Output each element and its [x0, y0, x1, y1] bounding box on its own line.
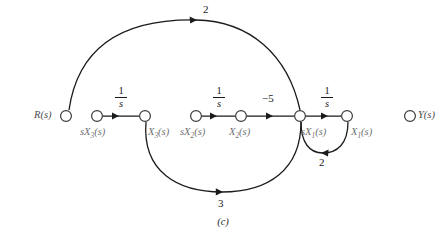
node-label-X2: X2(s)	[229, 127, 250, 139]
node-Y[interactable]	[405, 111, 416, 122]
node-label-X1: X1(s)	[351, 127, 372, 139]
node-sX2[interactable]	[191, 111, 202, 122]
node-X3[interactable]	[140, 111, 151, 122]
node-label-X3: X3(s)	[148, 127, 169, 139]
gain-label-X3-sX1: 3	[218, 198, 224, 209]
node-label-sX3: sX3(s)	[80, 127, 105, 139]
node-label-sX2: sX2(s)	[180, 127, 205, 139]
gain-label-X1-sX1: 2	[319, 157, 325, 168]
edge-sX3-to-X3	[103, 113, 139, 120]
figure-caption: (c)	[0, 216, 446, 227]
signal-flow-graph-figure: R(s) sX3(s) X3(s) sX2(s) X2(s) sX1(s) X1…	[0, 0, 446, 247]
node-label-Y: Y(s)	[418, 110, 435, 122]
edge-sX2-to-X2	[202, 113, 235, 120]
node-R[interactable]	[61, 111, 72, 122]
gain-label-X2-sX1: −5	[262, 93, 274, 104]
node-sX1[interactable]	[295, 111, 306, 122]
node-sX3[interactable]	[92, 111, 103, 122]
edge-X2-to-sX1	[247, 113, 294, 120]
node-X1[interactable]	[342, 111, 353, 122]
gain-label-sX3-X3: 1 s	[113, 86, 129, 109]
gain-label-R-sX1: 2	[203, 4, 209, 15]
node-label-sX1: sX1(s)	[301, 127, 326, 139]
node-label-R: R(s)	[34, 110, 52, 122]
edge-sX1-to-X1	[306, 113, 341, 120]
gain-label-sX2-X2: 1 s	[211, 86, 227, 109]
gain-label-sX1-X1: 1 s	[319, 86, 335, 109]
graph-canvas	[0, 0, 446, 247]
node-X2[interactable]	[236, 111, 247, 122]
